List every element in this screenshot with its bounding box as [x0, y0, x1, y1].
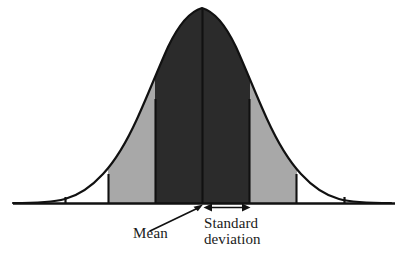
- standard-deviation-label-line1: Standard: [204, 216, 261, 232]
- bell-curve-diagram: [0, 0, 402, 257]
- bell-curve-figure: Mean Standard deviation: [0, 0, 402, 257]
- stddev-arrow-head-right: [242, 204, 251, 212]
- standard-deviation-label-line2: deviation: [204, 232, 261, 248]
- mean-label: Mean: [133, 226, 168, 242]
- stddev-arrow-head-left: [204, 204, 213, 212]
- standard-deviation-label: Standard deviation: [204, 216, 261, 248]
- stddev-double-arrow: [204, 204, 251, 212]
